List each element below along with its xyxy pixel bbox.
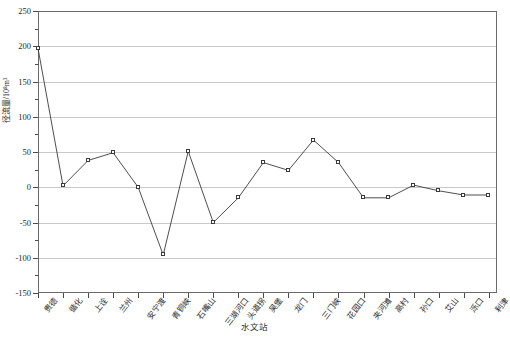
x-axis-tick-label: 泺口 xyxy=(469,297,485,315)
y-axis-tick-label: 250 xyxy=(18,7,31,16)
gridline xyxy=(39,187,496,188)
y-axis-tick-label: 150 xyxy=(18,78,31,87)
x-axis-tick-label: 循化 xyxy=(68,297,84,315)
y-axis-minor-tick xyxy=(35,205,38,206)
x-axis-tick xyxy=(113,293,114,298)
gridline xyxy=(39,152,496,153)
y-axis-tick xyxy=(33,152,38,153)
x-axis-tick-label: 艾山 xyxy=(444,297,460,315)
y-axis-tick-label: -100 xyxy=(15,254,31,263)
x-axis-tick-label: 吴堡 xyxy=(269,297,285,315)
x-axis-tick xyxy=(338,293,339,298)
y-axis-tick-label: -50 xyxy=(20,219,31,228)
x-axis-tick-label: 龙门 xyxy=(294,297,310,315)
y-axis-tick xyxy=(33,82,38,83)
x-axis-tick-label: 高村 xyxy=(394,297,410,315)
x-axis-tick-label: 夹河滩 xyxy=(372,297,393,321)
x-axis-tick xyxy=(489,293,490,298)
gridline xyxy=(39,117,496,118)
y-axis-minor-tick xyxy=(35,99,38,100)
x-axis-tick xyxy=(464,293,465,298)
x-axis-tick-label: 花园口 xyxy=(347,297,368,321)
x-axis-tick xyxy=(163,293,164,298)
x-axis-tick-label: 三门峡 xyxy=(322,297,343,321)
x-axis-tick xyxy=(389,293,390,298)
x-axis-tick xyxy=(414,293,415,298)
x-axis-tick xyxy=(63,293,64,298)
gridline xyxy=(39,258,496,259)
x-axis-tick xyxy=(188,293,189,298)
y-axis-minor-tick xyxy=(35,240,38,241)
x-axis-tick xyxy=(213,293,214,298)
y-axis-minor-tick xyxy=(35,134,38,135)
gridline xyxy=(39,223,496,224)
x-axis-tick-label: 青铜峡 xyxy=(171,297,192,321)
gridline xyxy=(39,46,496,47)
x-axis-tick xyxy=(364,293,365,298)
y-axis-tick-label: 50 xyxy=(23,148,32,157)
y-axis-minor-tick xyxy=(35,64,38,65)
x-axis-tick xyxy=(38,293,39,298)
y-axis-tick xyxy=(33,187,38,188)
x-axis-tick-label: 贵德 xyxy=(43,297,59,315)
y-axis-minor-tick xyxy=(35,170,38,171)
y-axis-tick xyxy=(33,223,38,224)
x-axis-tick xyxy=(238,293,239,298)
y-axis-tick xyxy=(33,46,38,47)
x-axis-tick xyxy=(313,293,314,298)
x-axis-tick-label: 安宁渡 xyxy=(146,297,167,321)
y-axis-tick xyxy=(33,258,38,259)
y-axis-minor-tick xyxy=(35,275,38,276)
x-axis-tick-label: 石嘴山 xyxy=(196,297,217,321)
x-axis-tick xyxy=(88,293,89,298)
x-axis-tick-label: 上诠 xyxy=(93,297,109,315)
x-axis-tick-label: 兰州 xyxy=(118,297,134,315)
y-axis-tick xyxy=(33,117,38,118)
x-axis-tick xyxy=(288,293,289,298)
x-axis-tick xyxy=(263,293,264,298)
y-axis-tick-label: 0 xyxy=(27,183,31,192)
y-axis-title-text: 径流量/10⁸m³ xyxy=(2,46,11,156)
y-axis-tick xyxy=(33,11,38,12)
y-axis-tick-label: -150 xyxy=(15,289,31,298)
y-axis-tick-label: 100 xyxy=(18,113,31,122)
x-axis-title: 水文站 xyxy=(0,320,508,332)
gridline xyxy=(39,82,496,83)
x-axis-tick-label: 利津 xyxy=(494,297,510,315)
x-axis-tick xyxy=(138,293,139,298)
plot-area xyxy=(38,11,497,293)
y-axis-minor-tick xyxy=(35,29,38,30)
y-axis-title: 径流量/10⁸m³ xyxy=(0,96,13,105)
x-axis-tick-label: 孙口 xyxy=(419,297,435,315)
y-axis-tick-label: 200 xyxy=(18,42,31,51)
x-axis-tick xyxy=(439,293,440,298)
